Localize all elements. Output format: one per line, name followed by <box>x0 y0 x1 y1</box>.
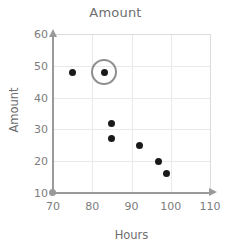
x-tick-label-70: 70 <box>38 201 68 212</box>
x-axis-title: Hours <box>53 228 210 242</box>
x-tick-label-90: 90 <box>117 201 147 212</box>
x-tick-label-100: 100 <box>156 201 186 212</box>
x-tick-label-80: 80 <box>77 201 107 212</box>
x-tick-label-110: 110 <box>195 201 225 212</box>
y-axis-title: Amount <box>7 75 21 145</box>
x-axis-tick-labels: 708090100110 <box>0 0 231 250</box>
scatter-chart: Amount 102030405060 708090100110 Hours A… <box>0 0 231 250</box>
